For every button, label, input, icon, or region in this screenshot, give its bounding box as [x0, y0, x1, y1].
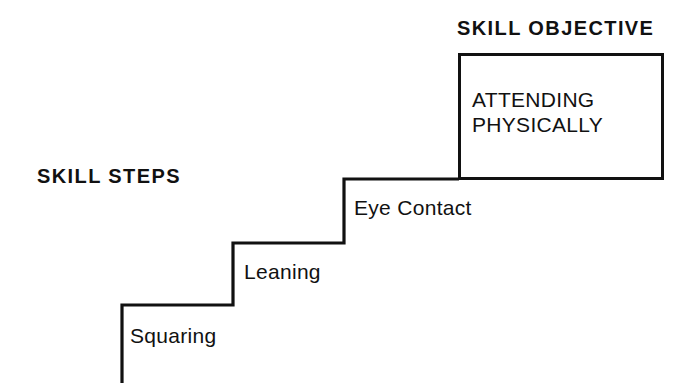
step-label-squaring: Squaring	[130, 325, 216, 346]
skill-objective-box: ATTENDING PHYSICALLY	[458, 53, 664, 180]
skill-objective-box-label: ATTENDING PHYSICALLY	[472, 87, 603, 137]
skill-steps-staircase-diagram: SKILL STEPS SKILL OBJECTIVE ATTENDING PH…	[0, 0, 685, 383]
skill-objective-heading: SKILL OBJECTIVE	[457, 18, 654, 38]
step-label-leaning: Leaning	[244, 261, 321, 282]
step-label-eye-contact: Eye Contact	[354, 197, 472, 218]
skill-steps-heading: SKILL STEPS	[37, 166, 181, 186]
